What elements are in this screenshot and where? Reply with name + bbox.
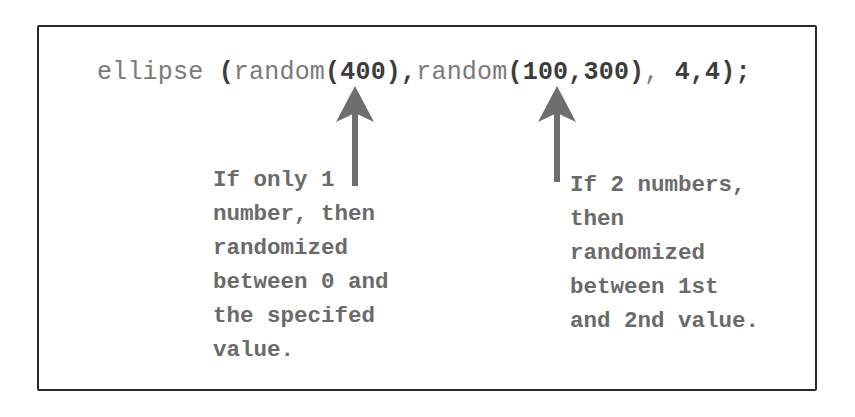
single-argument-note: If only 1number, thenrandomizedbetween 0… bbox=[213, 163, 389, 367]
two-argument-note: If 2 numbers,thenrandomizedbetween 1stan… bbox=[570, 168, 759, 338]
note-line: value. bbox=[213, 333, 389, 367]
note-line: between 0 and bbox=[213, 265, 389, 299]
note-line: between 1st bbox=[570, 270, 759, 304]
note-line: the specifed bbox=[213, 299, 389, 333]
note-line: randomized bbox=[570, 236, 759, 270]
note-line: then bbox=[570, 202, 759, 236]
note-line: and 2nd value. bbox=[570, 304, 759, 338]
note-line: If only 1 bbox=[213, 163, 389, 197]
note-line: number, then bbox=[213, 197, 389, 231]
note-line: randomized bbox=[213, 231, 389, 265]
note-line: If 2 numbers, bbox=[570, 168, 759, 202]
